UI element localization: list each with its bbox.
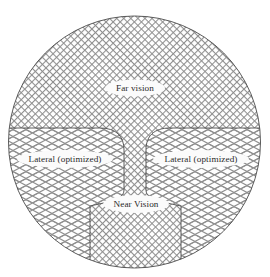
label-lateral-left: Lateral (optimized): [17, 150, 113, 168]
zone-fills: [0, 0, 270, 277]
label-lateral-right: Lateral (optimized): [153, 150, 249, 168]
label-far-vision: Far vision: [105, 80, 165, 97]
vision-zones-figure: Far vision Lateral (optimized) Lateral (…: [0, 0, 270, 277]
vision-zone-diagram: Far vision Lateral (optimized) Lateral (…: [0, 0, 270, 277]
label-text-far: Far vision: [116, 83, 154, 93]
label-text-lateral-left: Lateral (optimized): [28, 154, 101, 164]
label-near-vision: Near Vision: [103, 195, 169, 213]
label-text-lateral-right: Lateral (optimized): [164, 154, 237, 164]
label-text-near: Near Vision: [113, 199, 158, 209]
